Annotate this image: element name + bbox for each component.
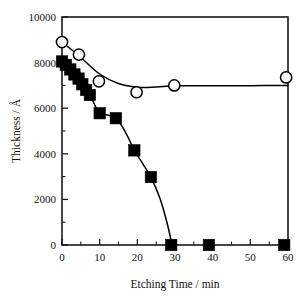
data-point-filled-squares — [145, 171, 156, 182]
x-tick-label: 10 — [94, 251, 106, 263]
figure-container: 0200040006000800010000 0102030405060 Etc… — [0, 0, 303, 296]
y-tick-label: 6000 — [34, 102, 57, 114]
data-point-filled-squares — [279, 239, 290, 250]
y-tick-label: 10000 — [29, 11, 57, 23]
x-tick-label: 0 — [59, 251, 65, 263]
y-tick-label: 8000 — [34, 57, 57, 69]
thickness-vs-etching-time-chart: 0200040006000800010000 0102030405060 Etc… — [0, 0, 303, 296]
x-tick-label: 30 — [170, 251, 182, 263]
data-point-filled-squares — [129, 145, 140, 156]
data-point-open-circles — [93, 76, 104, 87]
y-tick-label: 2000 — [34, 193, 57, 205]
axis-ticks — [62, 17, 288, 245]
data-point-open-circles — [56, 36, 67, 47]
plot-frame — [62, 17, 288, 245]
x-tick-label: 50 — [245, 251, 257, 263]
data-point-open-circles — [73, 49, 84, 60]
y-tick-label: 4000 — [34, 148, 57, 160]
y-tick-label: 0 — [51, 239, 57, 251]
series-curves — [62, 42, 288, 245]
data-point-open-circles — [131, 87, 142, 98]
data-point-filled-squares — [94, 108, 105, 119]
x-axis-tick-labels: 0102030405060 — [59, 251, 294, 263]
y-axis-title: Thickness / Å — [9, 98, 22, 163]
y-axis-tick-labels: 0200040006000800010000 — [29, 11, 57, 251]
series-markers — [56, 36, 291, 250]
data-point-filled-squares — [84, 89, 95, 100]
x-tick-label: 40 — [207, 251, 219, 263]
data-point-open-circles — [169, 80, 180, 91]
data-point-filled-squares — [110, 113, 121, 124]
data-point-filled-squares — [166, 239, 177, 250]
x-tick-label: 60 — [283, 251, 295, 263]
data-point-filled-squares — [203, 239, 214, 250]
x-tick-label: 20 — [132, 251, 144, 263]
data-point-open-circles — [281, 72, 292, 83]
x-axis-title: Etching Time / min — [130, 278, 219, 291]
